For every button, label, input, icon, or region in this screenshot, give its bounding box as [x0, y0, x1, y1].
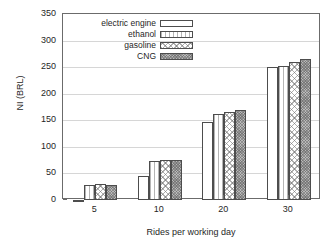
y-tick-mark — [63, 199, 67, 200]
legend-label: ethanol — [128, 29, 156, 39]
bar-chart: NI (BRL) 050100150200250300350 electric … — [0, 0, 336, 251]
legend-label: electric engine — [101, 18, 156, 28]
legend-swatch-gasoline — [160, 42, 193, 49]
y-tick-label: 300 — [28, 36, 56, 45]
legend-swatch-cng — [160, 53, 193, 60]
bar — [224, 112, 235, 200]
y-tick-label: 200 — [28, 89, 56, 98]
y-tick-label: 0 — [28, 195, 56, 204]
y-tick-label: 150 — [28, 115, 56, 124]
y-tick-label: 250 — [28, 62, 56, 71]
x-tick-mark — [159, 195, 160, 199]
bar — [138, 176, 149, 200]
plot-area: electric engine ethanol gasoline CNG — [62, 13, 320, 199]
legend-entry-gasoline: gasoline — [75, 40, 193, 50]
legend-swatch-electric-engine — [160, 20, 193, 27]
bar — [106, 185, 117, 200]
legend: electric engine ethanol gasoline CNG — [75, 18, 193, 62]
x-tick-label: 10 — [139, 205, 179, 214]
bar — [95, 184, 106, 200]
x-axis-title: Rides per working day — [62, 227, 320, 237]
x-tick-label: 30 — [268, 205, 308, 214]
x-tick-mark — [94, 195, 95, 199]
legend-label: gasoline — [124, 40, 156, 50]
bar — [278, 66, 289, 200]
bar — [213, 114, 224, 200]
bar — [160, 160, 171, 200]
bar — [235, 110, 246, 200]
y-tick-label: 50 — [28, 168, 56, 177]
y-tick-label: 350 — [28, 9, 56, 18]
bar — [73, 200, 84, 202]
bar — [289, 62, 300, 200]
x-tick-label: 5 — [74, 205, 114, 214]
legend-entry-ethanol: ethanol — [75, 29, 193, 39]
bar — [171, 160, 182, 200]
bar — [300, 59, 311, 200]
legend-swatch-ethanol — [160, 31, 193, 38]
y-axis-title: NI (BRL) — [15, 53, 25, 133]
legend-entry-electric-engine: electric engine — [75, 18, 193, 28]
legend-label: CNG — [137, 51, 156, 61]
bar — [202, 122, 213, 200]
y-tick-label: 100 — [28, 142, 56, 151]
legend-entry-cng: CNG — [75, 51, 193, 61]
bar — [267, 67, 278, 200]
x-tick-mark — [288, 195, 289, 199]
x-tick-label: 20 — [203, 205, 243, 214]
x-tick-mark — [223, 195, 224, 199]
